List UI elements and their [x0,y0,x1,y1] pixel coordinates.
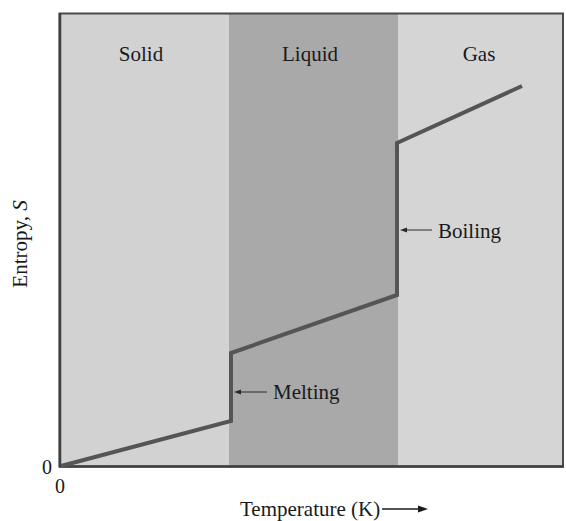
x-axis-label: Temperature (K) [240,497,380,521]
region-label-gas: Gas [463,42,496,66]
region-label-solid: Solid [119,42,164,66]
y-axis-label-symbol: S [8,200,32,211]
x-axis-arrowhead-icon [418,506,428,513]
annotation-boiling: Boiling [438,219,502,243]
y-origin-tick-label: 0 [42,456,52,478]
y-axis-label-text: Entropy, [8,211,32,288]
annotation-melting: Melting [273,380,340,404]
x-origin-tick-label: 0 [55,475,65,497]
region-label-liquid: Liquid [282,42,338,66]
solid-region [61,14,229,466]
entropy-temperature-chart: Solid Liquid Gas Melting Boiling 0 0 Ent… [0,0,566,521]
y-axis-label: Entropy, S [8,200,32,288]
